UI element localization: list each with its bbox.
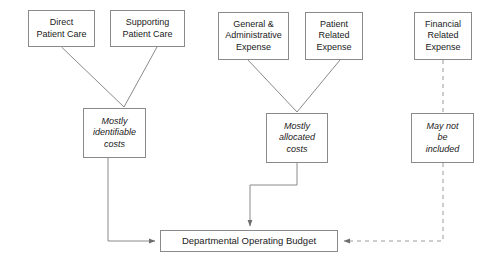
node-departmental-operating-budget[interactable]: Departmental Operating Budget [160,230,338,252]
flowchart-diagram: Direct Patient Care Supporting Patient C… [0,0,492,267]
node-supporting-patient-care[interactable]: Supporting Patient Care [110,10,185,47]
edge-supporting-patient-care-to-identifiable [124,47,157,107]
node-may-not-be-included[interactable]: May not be included [411,113,474,163]
node-patient-related-expense[interactable]: Patient Related Expense [305,12,363,60]
node-departmental-operating-budget-label: Departmental Operating Budget [179,235,319,247]
node-may-not-be-included-label: May not be included [423,121,463,156]
edge-general-administrative-to-allocated [248,60,297,112]
node-financial-related-expense-label: Financial Related Expense [422,19,464,54]
node-financial-related-expense[interactable]: Financial Related Expense [414,12,472,60]
node-mostly-identifiable-costs-label: Mostly identifiable costs [90,116,139,151]
node-mostly-allocated-costs[interactable]: Mostly allocated costs [266,113,328,163]
node-direct-patient-care-label: Direct Patient Care [33,17,89,40]
edge-direct-patient-care-to-identifiable [62,47,125,107]
node-general-administrative-expense[interactable]: General & Administrative Expense [218,12,289,60]
edge-may-not-be-included-to-budget [344,163,443,241]
node-direct-patient-care[interactable]: Direct Patient Care [28,10,95,47]
edge-patient-related-to-allocated [297,60,340,112]
edge-allocated-costs-to-budget [250,163,297,226]
node-mostly-identifiable-costs[interactable]: Mostly identifiable costs [83,108,146,158]
node-patient-related-expense-label: Patient Related Expense [313,19,354,54]
node-general-administrative-expense-label: General & Administrative Expense [222,19,285,54]
node-mostly-allocated-costs-label: Mostly allocated costs [276,121,318,156]
edge-identifiable-costs-to-budget [108,158,155,241]
node-supporting-patient-care-label: Supporting Patient Care [119,17,175,40]
